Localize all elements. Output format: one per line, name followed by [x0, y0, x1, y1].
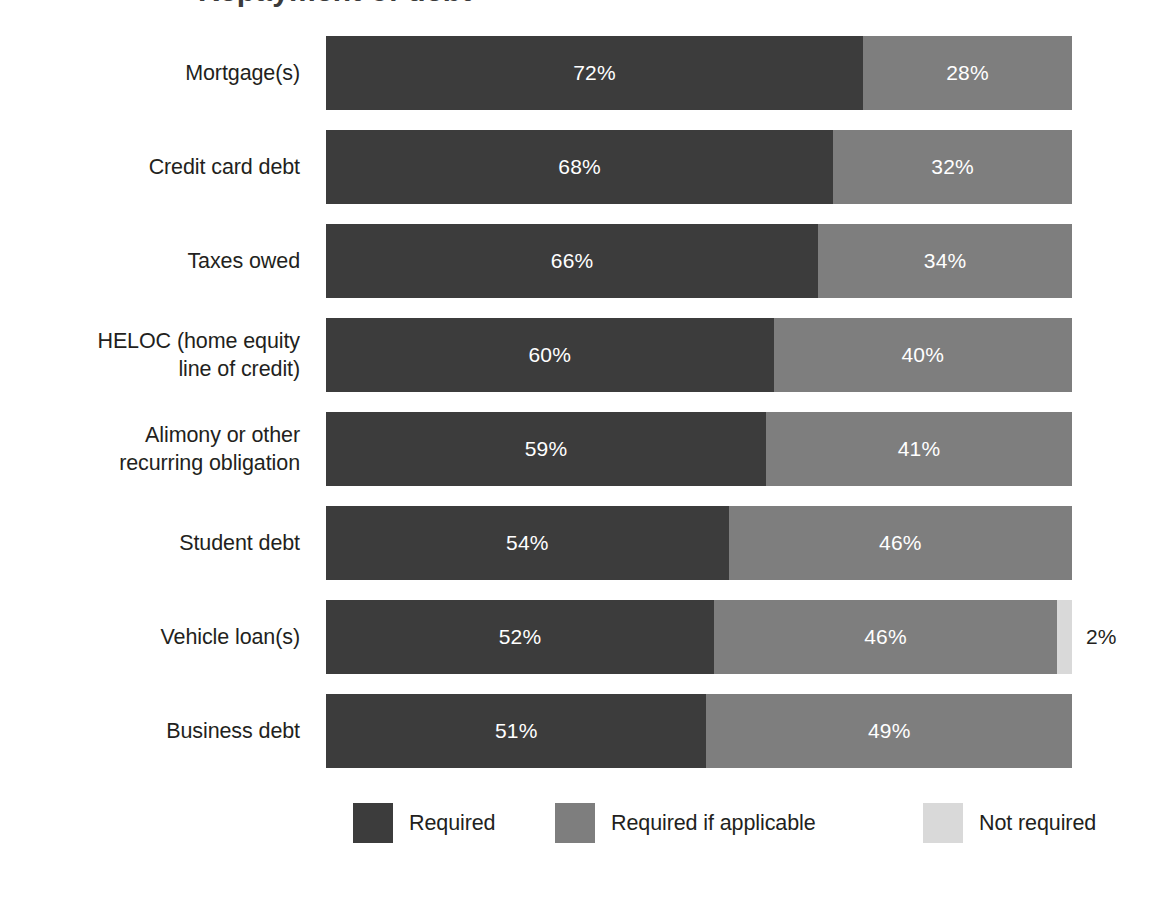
- bar-segment[interactable]: 60%: [326, 318, 774, 392]
- segment-value-label: 32%: [931, 155, 974, 179]
- segment-value-label: 66%: [551, 249, 594, 273]
- segment-value-label: 2%: [1086, 625, 1117, 649]
- segment-value-label: 46%: [864, 625, 907, 649]
- category-label-line: Student debt: [179, 529, 300, 557]
- bar-segment[interactable]: 32%: [833, 130, 1072, 204]
- bar-segment[interactable]: 51%: [326, 694, 706, 768]
- stacked-bar-chart: Mortgage(s)72%28%Credit card debt68%32%T…: [0, 0, 1152, 898]
- legend-item[interactable]: Required if applicable: [555, 800, 816, 846]
- category-label-line: line of credit): [178, 355, 300, 383]
- segment-value-label: 46%: [879, 531, 922, 555]
- bar-segment[interactable]: 46%: [714, 600, 1057, 674]
- segment-value-label: 60%: [528, 343, 571, 367]
- stacked-bar: 51%49%: [326, 694, 1072, 768]
- stacked-bar: 72%28%: [326, 36, 1072, 110]
- category-label-line: Mortgage(s): [185, 59, 300, 87]
- chart-row: Credit card debt68%32%: [0, 130, 1152, 204]
- segment-value-label: 54%: [506, 531, 549, 555]
- bar-segment[interactable]: 54%: [326, 506, 729, 580]
- category-label: Vehicle loan(s): [0, 600, 300, 674]
- bar-segment[interactable]: 59%: [326, 412, 766, 486]
- legend-swatch: [353, 803, 393, 843]
- chart-row: Vehicle loan(s)52%46%2%: [0, 600, 1152, 674]
- stacked-bar: 54%46%: [326, 506, 1072, 580]
- segment-value-label: 51%: [495, 719, 538, 743]
- legend-item[interactable]: Required: [353, 800, 495, 846]
- chart-row: Student debt54%46%: [0, 506, 1152, 580]
- category-label-line: Vehicle loan(s): [160, 623, 300, 651]
- stacked-bar: 59%41%: [326, 412, 1072, 486]
- stacked-bar: 52%46%2%: [326, 600, 1072, 674]
- chart-row: Business debt51%49%: [0, 694, 1152, 768]
- category-label: Taxes owed: [0, 224, 300, 298]
- category-label-line: Business debt: [166, 717, 300, 745]
- legend-label: Not required: [979, 811, 1096, 836]
- bar-segment[interactable]: 34%: [818, 224, 1072, 298]
- category-label-line: recurring obligation: [119, 449, 300, 477]
- legend-swatch: [555, 803, 595, 843]
- category-label-line: Credit card debt: [149, 153, 300, 181]
- segment-value-label: 41%: [898, 437, 941, 461]
- category-label-line: Taxes owed: [187, 247, 300, 275]
- bar-segment[interactable]: 2%: [1057, 600, 1072, 674]
- legend-item[interactable]: Not required: [923, 800, 1096, 846]
- chart-row: Taxes owed66%34%: [0, 224, 1152, 298]
- bar-segment[interactable]: 68%: [326, 130, 833, 204]
- segment-value-label: 49%: [868, 719, 911, 743]
- segment-value-label: 28%: [946, 61, 989, 85]
- category-label: Business debt: [0, 694, 300, 768]
- bar-segment[interactable]: 49%: [706, 694, 1072, 768]
- category-label: Mortgage(s): [0, 36, 300, 110]
- chart-row: Mortgage(s)72%28%: [0, 36, 1152, 110]
- category-label: Student debt: [0, 506, 300, 580]
- bar-segment[interactable]: 46%: [729, 506, 1072, 580]
- bar-segment[interactable]: 52%: [326, 600, 714, 674]
- chart-row: Alimony or otherrecurring obligation59%4…: [0, 412, 1152, 486]
- legend-swatch: [923, 803, 963, 843]
- category-label-line: HELOC (home equity: [97, 327, 300, 355]
- category-label: HELOC (home equityline of credit): [0, 318, 300, 392]
- stacked-bar: 66%34%: [326, 224, 1072, 298]
- segment-value-label: 52%: [499, 625, 542, 649]
- chart-row: HELOC (home equityline of credit)60%40%: [0, 318, 1152, 392]
- category-label-line: Alimony or other: [145, 421, 300, 449]
- bar-segment[interactable]: 41%: [766, 412, 1072, 486]
- segment-value-label: 68%: [558, 155, 601, 179]
- chart-legend: RequiredRequired if applicableNot requir…: [0, 800, 1152, 846]
- segment-value-label: 34%: [924, 249, 967, 273]
- segment-value-label: 40%: [901, 343, 944, 367]
- stacked-bar: 68%32%: [326, 130, 1072, 204]
- bar-segment[interactable]: 40%: [774, 318, 1072, 392]
- category-label: Credit card debt: [0, 130, 300, 204]
- segment-value-label: 59%: [525, 437, 568, 461]
- segment-value-label: 72%: [573, 61, 616, 85]
- bar-segment[interactable]: 28%: [863, 36, 1072, 110]
- category-label: Alimony or otherrecurring obligation: [0, 412, 300, 486]
- legend-label: Required if applicable: [611, 811, 816, 836]
- bar-segment[interactable]: 72%: [326, 36, 863, 110]
- legend-label: Required: [409, 811, 495, 836]
- stacked-bar: 60%40%: [326, 318, 1072, 392]
- bar-segment[interactable]: 66%: [326, 224, 818, 298]
